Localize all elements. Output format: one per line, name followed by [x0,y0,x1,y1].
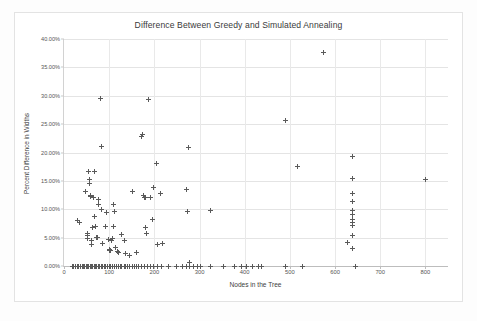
data-point [143,225,148,230]
gridline-horizontal [64,67,448,68]
data-point [88,264,93,269]
data-point [130,189,135,194]
data-point [123,251,128,256]
chart-frame: Difference Between Greedy and Simulated … [14,12,463,302]
data-point [86,264,91,269]
y-tick-label: 15.00% [41,178,60,184]
data-point [350,176,355,181]
data-point [158,191,163,196]
data-point [174,264,179,269]
y-tick-label: 10.00% [41,206,60,212]
data-point [146,97,151,102]
y-axis-title: Percent Difference in Widths [20,39,32,267]
data-point [73,264,78,269]
x-tick-label: 400 [240,269,250,275]
data-point [100,241,105,246]
data-point [130,264,135,269]
x-tick-label: 0 [62,269,65,275]
x-tick-label: 100 [104,269,114,275]
data-point [103,224,108,229]
y-tick-label: 0.00% [44,263,60,269]
data-point [82,264,87,269]
data-point [116,264,121,269]
data-point [141,193,146,198]
data-point [114,264,119,269]
data-point [84,264,89,269]
data-point [166,264,171,269]
data-point [127,253,132,258]
data-point [145,264,150,269]
y-tick-mark [61,152,64,153]
data-point [98,96,103,101]
data-point [70,264,75,269]
data-point [96,197,101,202]
gridline-horizontal [64,238,448,239]
data-point [89,264,94,269]
data-point [350,154,355,159]
data-point [78,264,83,269]
data-point [99,264,104,269]
data-point [350,212,355,217]
gridline-vertical [245,39,246,266]
data-point [239,264,244,269]
x-tick-label: 300 [195,269,205,275]
data-point [99,144,104,149]
data-point [119,232,124,237]
y-tick-mark [61,124,64,125]
data-point [127,264,132,269]
y-axis-title-text: Percent Difference in Widths [23,113,30,194]
y-tick-mark [61,209,64,210]
data-point [123,264,128,269]
data-point [353,264,358,269]
data-point [208,264,213,269]
data-point [321,50,326,55]
data-point [136,264,141,269]
data-point [148,195,153,200]
data-point [142,195,147,200]
data-point [92,264,97,269]
y-tick-label: 5.00% [44,235,60,241]
data-point [92,169,97,174]
gridline-horizontal [64,39,448,40]
data-point [113,245,118,250]
data-point [91,195,96,200]
y-tick-label: 35.00% [41,64,60,70]
data-point [159,264,164,269]
data-point [350,246,355,251]
data-point [134,250,139,255]
data-point [88,193,93,198]
data-point [92,214,97,219]
data-point [115,249,120,254]
data-point [88,194,93,199]
x-tick-label: 500 [285,269,295,275]
data-point [122,264,127,269]
data-point [143,195,148,200]
data-point [350,223,355,228]
data-point [93,264,98,269]
data-point [184,187,189,192]
x-tick-label: 800 [421,269,431,275]
gridline-vertical [335,39,336,266]
data-point [184,264,189,269]
data-point [180,264,185,269]
x-axis-title: Nodes in the Tree [63,281,448,288]
gridline-vertical [380,39,381,266]
data-point [111,224,116,229]
data-point [103,264,108,269]
data-point [187,264,192,269]
gridline-vertical [290,39,291,266]
data-point [221,264,226,269]
y-tick-label: 25.00% [41,121,60,127]
plot-area: 0.00%5.00%10.00%15.00%20.00%25.00%30.00%… [63,39,448,267]
y-tick-mark [61,237,64,238]
data-point [90,225,95,230]
data-point [191,264,196,269]
data-point [144,231,149,236]
x-tick-label: 700 [375,269,385,275]
data-point [345,240,350,245]
data-point [186,145,191,150]
gridline-vertical [154,39,155,266]
data-point [139,134,144,139]
data-point [75,218,80,223]
data-point [187,260,192,265]
